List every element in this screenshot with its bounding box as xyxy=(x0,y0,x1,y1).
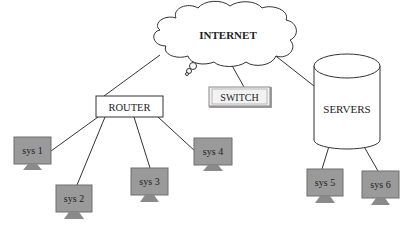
sys3-label: sys 3 xyxy=(139,176,159,187)
router-node: ROUTER xyxy=(96,96,163,117)
cylinder-top xyxy=(314,54,380,78)
sys5-label: sys 5 xyxy=(315,177,335,188)
switch-node: SWITCH xyxy=(209,87,272,108)
monitor-stand xyxy=(140,195,159,202)
monitor-stand xyxy=(64,212,84,219)
monitor-stand xyxy=(371,198,390,205)
edge-router-sys4 xyxy=(158,117,196,152)
edge-router-sys1 xyxy=(51,117,98,151)
internet-node: INTERNET xyxy=(154,1,297,75)
monitor-stand xyxy=(315,196,335,203)
sys3-node: sys 3 xyxy=(131,168,168,202)
servers-node: SERVERS xyxy=(314,54,380,149)
sys6-label: sys 6 xyxy=(370,179,390,190)
edge-internet-router xyxy=(104,55,160,96)
sys2-node: sys 2 xyxy=(56,185,92,219)
sys6-node: sys 6 xyxy=(362,171,399,205)
router-label: ROUTER xyxy=(109,102,151,113)
sys2-label: sys 2 xyxy=(64,193,84,204)
switch-label: SWITCH xyxy=(220,92,258,103)
network-diagram: INTERNET ROUTER SWITCH SERVERS sys 1 sys… xyxy=(0,0,412,234)
sys1-node: sys 1 xyxy=(14,137,51,170)
cloud-tail-bubble-3 xyxy=(186,73,189,76)
monitor-stand xyxy=(23,164,42,170)
monitor-stand xyxy=(203,165,223,171)
sys4-label: sys 4 xyxy=(203,146,223,157)
sys5-node: sys 5 xyxy=(307,169,343,203)
edge-router-sys2 xyxy=(77,117,105,185)
edge-router-sys3 xyxy=(134,117,150,168)
sys4-node: sys 4 xyxy=(194,138,232,171)
sys1-label: sys 1 xyxy=(22,145,42,156)
internet-label: INTERNET xyxy=(199,29,257,41)
servers-label: SERVERS xyxy=(323,103,370,115)
